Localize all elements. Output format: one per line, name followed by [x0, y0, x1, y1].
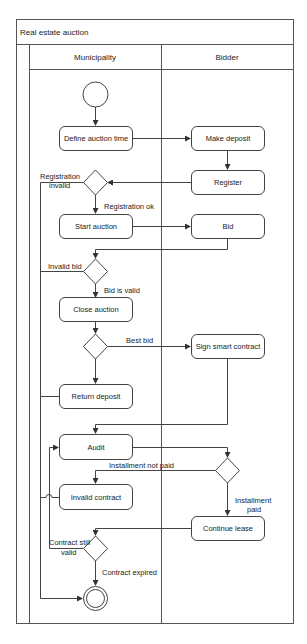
activity-diagram: [0, 0, 307, 644]
activity-invalid-contract[interactable]: Invalid contract: [59, 484, 133, 510]
edge-label-contract-expired: Contract expired: [102, 568, 157, 577]
edge-label-registration-invalid-2: invalid: [49, 181, 70, 190]
activity-return-deposit[interactable]: Return deposit: [59, 384, 133, 409]
edge-label-best-bid: Best bid: [126, 336, 153, 345]
decision-bid: [84, 259, 108, 284]
activity-sign-smart-contract[interactable]: Sign smart contract: [191, 334, 265, 359]
activity-register[interactable]: Register: [191, 170, 265, 195]
activity-bid[interactable]: Bid: [191, 214, 265, 239]
edge-label-installment-paid-2: paid: [247, 505, 261, 514]
edge-label-registration-ok: Registration ok: [104, 202, 154, 211]
lane-header-municipality: Municipality: [29, 53, 161, 62]
decision-registration: [84, 170, 108, 195]
activity-audit[interactable]: Audit: [59, 434, 133, 460]
edge-label-installment-paid: Installment: [235, 496, 271, 505]
lane-header-bidder: Bidder: [161, 53, 293, 62]
activity-continue-lease[interactable]: Continue lease: [191, 516, 265, 541]
activity-define-auction-time[interactable]: Define auction time: [59, 126, 133, 151]
edge-label-bid-is-valid: Bid is valid: [104, 286, 140, 295]
decision-installment: [216, 458, 240, 483]
activity-make-deposit[interactable]: Make deposit: [191, 126, 265, 151]
activity-start-auction[interactable]: Start auction: [59, 214, 133, 239]
edge-label-contract-still-valid: Contract still: [49, 538, 90, 547]
edge-label-invalid-bid: Invalid bid: [48, 262, 82, 271]
edge-label-registration-invalid: Registration: [40, 172, 80, 181]
edge-label-contract-still-valid-2: valid: [61, 548, 76, 557]
edge-label-installment-not-paid: Installment not paid: [109, 461, 174, 470]
end-node: [84, 587, 108, 611]
pool-title: Real estate auction: [20, 28, 89, 37]
start-node: [83, 82, 108, 107]
activity-close-auction[interactable]: Close auction: [59, 297, 133, 322]
decision-best-bid: [84, 334, 108, 359]
